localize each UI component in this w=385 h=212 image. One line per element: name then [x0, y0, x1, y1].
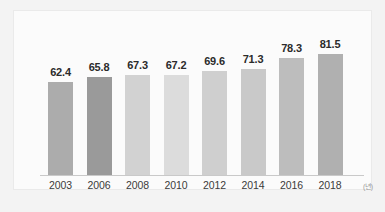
x-tick-label: 2003 [42, 179, 80, 191]
bar-group: 78.3 [279, 41, 304, 175]
x-tick-label: 2008 [119, 179, 157, 191]
bar-group: 71.3 [241, 41, 266, 175]
bar [48, 82, 73, 175]
x-tick-label: 2014 [234, 179, 272, 191]
bar-group: 62.4 [48, 41, 73, 175]
bar-value-label: 69.6 [204, 55, 225, 67]
bar [125, 75, 150, 175]
bar-value-label: 67.3 [127, 59, 148, 71]
bar-group: 67.2 [164, 41, 189, 175]
x-axis-tick-labels: 20032006200820102012201420162018 [48, 179, 356, 197]
bar-group: 69.6 [202, 41, 227, 175]
bars-area: 62.465.867.367.269.671.378.381.5 [48, 41, 356, 175]
bar-chart: 62.465.867.367.269.671.378.381.5 2003200… [0, 0, 385, 212]
bar [164, 75, 189, 175]
bar-value-label: 78.3 [281, 42, 302, 54]
bar-group: 67.3 [125, 41, 150, 175]
bar-value-label: 67.2 [166, 59, 187, 71]
bar [241, 69, 266, 175]
bar-value-label: 65.8 [89, 61, 110, 73]
x-tick-label: 2006 [80, 179, 118, 191]
bar-group: 81.5 [318, 41, 343, 175]
bar-value-label: 71.3 [243, 53, 264, 65]
x-tick-label: 2012 [196, 179, 234, 191]
bar-value-label: 62.4 [50, 66, 71, 78]
bar [279, 58, 304, 175]
bar [202, 71, 227, 175]
bar-group: 65.8 [87, 41, 112, 175]
bar [318, 54, 343, 175]
bar-value-label: 81.5 [320, 38, 341, 50]
axis-unit-label: (년) [363, 181, 373, 191]
x-tick-label: 2016 [273, 179, 311, 191]
x-axis-line [40, 175, 364, 176]
bar [87, 77, 112, 175]
chart-panel: 62.465.867.367.269.671.378.381.5 2003200… [14, 11, 371, 189]
x-tick-label: 2010 [157, 179, 195, 191]
x-tick-label: 2018 [311, 179, 349, 191]
